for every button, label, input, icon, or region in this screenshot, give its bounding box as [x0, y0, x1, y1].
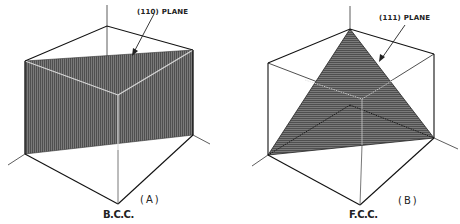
cube-a: [8, 5, 210, 204]
panel-label-b: (B): [398, 195, 419, 206]
crystal-planes-diagram: [0, 0, 460, 224]
cube-b: [252, 6, 458, 205]
axis-x-b: [252, 155, 268, 166]
axis-x-a: [8, 154, 25, 165]
plane-label-a: (110) PLANE: [137, 8, 188, 16]
panel-label-a: (A): [140, 194, 161, 205]
structure-label-a: B.C.C.: [103, 209, 134, 220]
plane-111: [268, 29, 434, 155]
plane-label-b: (111) PLANE: [379, 14, 430, 22]
axis-y-b: [434, 138, 458, 149]
leader-arrow-a: [134, 14, 154, 52]
structure-label-b: F.C.C.: [349, 209, 377, 220]
leader-arrow-b: [382, 25, 405, 58]
axis-y-a: [193, 135, 210, 144]
